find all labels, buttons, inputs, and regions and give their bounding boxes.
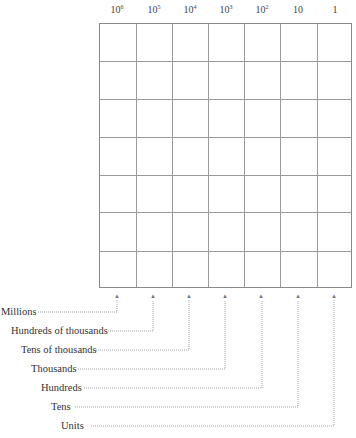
- leader-hundreds: [84, 300, 262, 388]
- label-units: Units: [61, 420, 84, 432]
- leader-hundreds-of-thousands: [108, 300, 153, 331]
- label-tens-of-thousands: Tens of thousands: [21, 344, 97, 356]
- label-hundreds-of-thousands: Hundreds of thousands: [11, 325, 108, 337]
- label-thousands: Thousands: [31, 363, 77, 375]
- label-hundreds: Hundreds: [41, 382, 82, 394]
- leader-millions: [38, 300, 117, 312]
- leader-tens-of-thousands: [96, 300, 189, 350]
- label-tens: Tens: [51, 401, 71, 413]
- leader-tens: [75, 300, 298, 407]
- label-millions: Millions: [1, 306, 37, 318]
